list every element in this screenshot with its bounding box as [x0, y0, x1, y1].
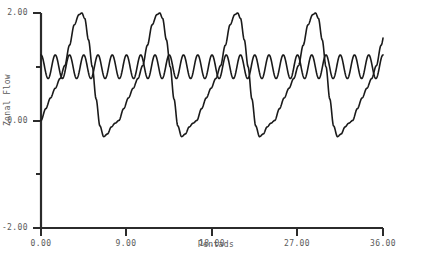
x-tick-label-0: 0.00	[21, 240, 61, 248]
plot-area	[0, 0, 428, 263]
data-series-group	[41, 13, 383, 137]
axis-lines	[41, 13, 383, 228]
y-axis-ticks	[33, 13, 41, 228]
x-tick-label-36: 36.00	[363, 240, 403, 248]
y-tick-label-top: 2.00	[0, 9, 28, 17]
y-tick-label-bottom: -2.00	[0, 224, 28, 232]
x-axis-ticks	[41, 228, 383, 236]
chart-container: 2.00 0.00 -2.00 0.00 9.00 18.00 27.00 36…	[0, 0, 428, 263]
x-axis-title: Pentads	[176, 241, 256, 249]
y-axis-title: Zonal Flow	[4, 70, 12, 130]
x-tick-label-27: 27.00	[277, 240, 317, 248]
x-tick-label-9: 9.00	[106, 240, 146, 248]
